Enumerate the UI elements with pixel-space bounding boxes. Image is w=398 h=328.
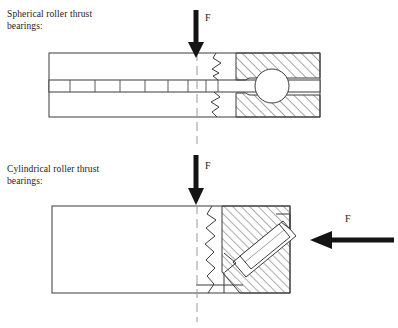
axial-force-arrow-middle: [188, 155, 204, 205]
spherical-bearing-group: [49, 10, 320, 144]
radial-force-arrow-right: [310, 231, 394, 249]
bearing-vector-canvas: [0, 0, 398, 328]
axial-force-arrow-top: [188, 10, 204, 58]
cylindrical-bearing-group: [52, 205, 394, 322]
spherical-rolling-element: [255, 69, 289, 103]
bearing-diagram: Spherical roller thrust bearings: Cylind…: [0, 0, 398, 328]
